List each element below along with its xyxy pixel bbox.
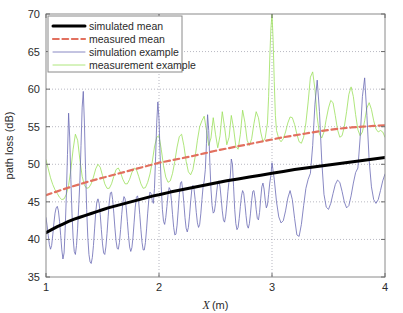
y-tick-label: 55 bbox=[28, 121, 40, 133]
y-axis-title: path loss (dB) bbox=[3, 112, 15, 180]
x-tick-label: 4 bbox=[382, 281, 388, 293]
x-tick-label: 1 bbox=[43, 281, 49, 293]
x-tick-label: 2 bbox=[156, 281, 162, 293]
y-tick-label: 35 bbox=[28, 271, 40, 283]
legend-label: simulated mean bbox=[89, 20, 163, 32]
legend-label: simulation example bbox=[89, 46, 179, 58]
y-tick-label: 50 bbox=[28, 158, 40, 170]
y-tick-label: 60 bbox=[28, 83, 40, 95]
y-tick-label: 65 bbox=[28, 46, 40, 58]
y-tick-label: 45 bbox=[28, 196, 40, 208]
legend: simulated meanmeasured meansimulation ex… bbox=[48, 16, 196, 72]
x-axis-title: X(m) bbox=[202, 298, 229, 312]
legend-label: measurement example bbox=[89, 59, 196, 71]
x-tick-label: 3 bbox=[269, 281, 275, 293]
figure-container: 35404550556065701234X(m)path loss (dB)si… bbox=[0, 0, 403, 313]
y-tick-label: 70 bbox=[28, 8, 40, 20]
y-tick-label: 40 bbox=[28, 233, 40, 245]
legend-label: measured mean bbox=[89, 33, 165, 45]
path-loss-chart: 35404550556065701234X(m)path loss (dB)si… bbox=[0, 0, 403, 313]
